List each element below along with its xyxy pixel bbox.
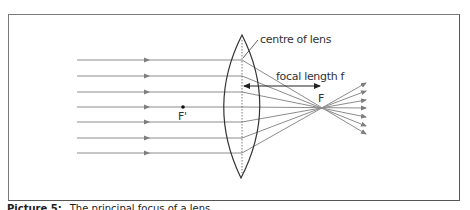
f-prime-dot [181,105,185,109]
focal-point-prime-label: F' [178,110,187,123]
focal-length-label: focal length f [276,70,344,83]
lens-diagram [0,0,470,210]
caption-text: The principal focus of a lens [70,203,211,210]
incoming-rays [77,60,236,153]
focal-point-label: F [318,92,324,105]
centre-of-lens-label: centre of lens [260,33,331,46]
caption-number: Picture 5: [7,203,62,210]
figure-caption: Picture 5:The principal focus of a lens [7,203,210,210]
